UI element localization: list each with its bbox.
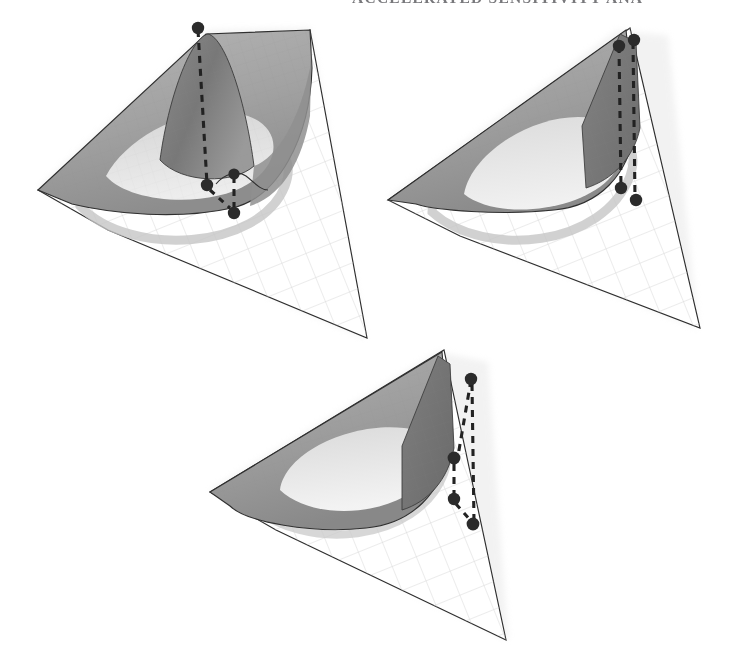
surface-panel-c [188, 340, 558, 666]
panel-b-canvas [368, 8, 728, 353]
marker-projected-left [201, 179, 213, 191]
marker-ridge-left [613, 40, 625, 52]
surface-panel-b [368, 8, 728, 353]
surface-panel-a [10, 8, 380, 358]
marker-peak [192, 22, 204, 34]
marker-ridge-apex [465, 373, 477, 385]
panel-a-canvas [10, 8, 380, 358]
panel-b-surface [388, 30, 640, 212]
marker-mid-slope [448, 452, 461, 465]
panel-c-canvas [188, 340, 558, 666]
figure-three-response-surfaces [0, 0, 732, 666]
panel-a-surface [38, 30, 312, 215]
marker-base-foot [630, 194, 642, 206]
marker-basin [228, 168, 239, 179]
marker-basin [615, 182, 627, 194]
marker-ridge-right [628, 34, 640, 46]
marker-base-foot [228, 207, 240, 219]
panel-c-surface [210, 352, 454, 530]
marker-base-foot [467, 518, 480, 531]
marker-basin [448, 493, 460, 505]
